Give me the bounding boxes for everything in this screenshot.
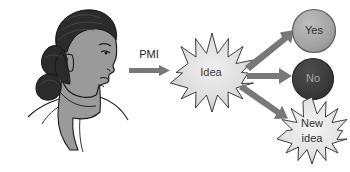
new-idea-label-line1: New (301, 117, 323, 129)
idea-label: Idea (200, 66, 222, 78)
hair-lower-bun (36, 74, 61, 100)
yes-label: Yes (305, 24, 323, 36)
diagram-svg: PMI Idea Yes No (0, 0, 350, 172)
new-idea-label-line2: idea (302, 132, 324, 144)
yes-node: Yes (293, 10, 336, 53)
no-node: No (293, 59, 334, 100)
diagram-canvas: PMI Idea Yes No (0, 0, 350, 172)
pupil (105, 52, 108, 55)
no-label: No (306, 72, 320, 84)
pmi-label: PMI (139, 48, 159, 60)
